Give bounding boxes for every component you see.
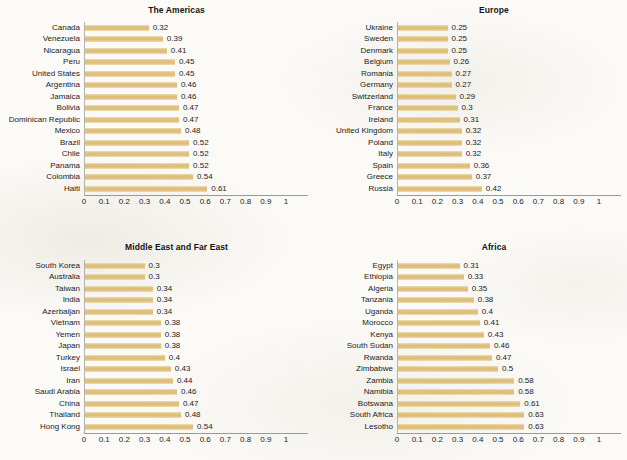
bar-track: 0.4: [84, 352, 313, 364]
bar: [397, 82, 452, 88]
x-tick-label: 0.9: [573, 198, 584, 206]
bar-row: Kenya0.43: [313, 329, 627, 341]
x-tick-label: 0.6: [513, 198, 524, 206]
bar-value-label: 0.32: [149, 24, 169, 32]
bar-row: South Africa0.63: [313, 410, 627, 422]
bar-row: China0.47: [0, 398, 313, 410]
y-axis-line: [397, 22, 398, 195]
bar-track: 0.41: [397, 318, 627, 330]
bar-track: 0.25: [397, 22, 627, 34]
bar: [397, 94, 456, 100]
bar-track: 0.38: [397, 295, 627, 307]
bar-row: Algeria0.35: [313, 283, 627, 295]
bar-row: Thailand0.48: [0, 410, 313, 422]
bar-value-label: 0.41: [167, 47, 187, 55]
bar-row: Zambia0.58: [313, 375, 627, 387]
bar-row: Chile0.52: [0, 149, 313, 161]
bar: [84, 366, 171, 372]
bar-value-label: 0.3: [458, 104, 473, 112]
bar-value-label: 0.25: [448, 24, 468, 32]
category-label: Nicaragua: [0, 47, 84, 55]
bar: [84, 297, 153, 303]
x-tick-label: 1: [284, 436, 288, 444]
bar-track: 0.32: [84, 22, 313, 34]
x-tick-label: 1: [597, 198, 601, 206]
bar-track: 0.52: [84, 160, 313, 172]
category-label: Algeria: [313, 285, 397, 293]
category-label: Chile: [0, 150, 84, 158]
bar: [397, 389, 514, 395]
bar-track: 0.61: [397, 398, 627, 410]
bar-value-label: 0.48: [181, 411, 201, 419]
bar-value-label: 0.36: [470, 162, 490, 170]
bar-row: Spain0.36: [313, 160, 627, 172]
category-label: South Korea: [0, 262, 84, 270]
x-tick-label: 0.1: [412, 436, 423, 444]
category-label: Australia: [0, 273, 84, 281]
bar-row: Belgium0.26: [313, 57, 627, 69]
category-label: Iran: [0, 377, 84, 385]
bar-value-label: 0.31: [460, 116, 480, 124]
category-label: Peru: [0, 58, 84, 66]
x-tick-label: 0: [395, 198, 399, 206]
bar-track: 0.35: [397, 283, 627, 295]
bar: [397, 263, 460, 269]
x-tick-label: 0.9: [260, 436, 271, 444]
bar-value-label: 0.38: [161, 331, 181, 339]
bar: [397, 71, 452, 77]
x-axis-ticks: 00.10.20.30.40.50.60.70.80.91: [397, 196, 599, 210]
category-label: France: [313, 104, 397, 112]
bar: [84, 117, 179, 123]
bar-row: Russia0.42: [313, 183, 627, 195]
bar: [397, 378, 514, 384]
category-label: Kenya: [313, 331, 397, 339]
bar: [84, 59, 175, 65]
bar: [84, 151, 189, 157]
bar-row: Brazil0.52: [0, 137, 313, 149]
category-label: Italy: [313, 150, 397, 158]
category-label: Turkey: [0, 354, 84, 362]
bar-row: Jamaica0.46: [0, 91, 313, 103]
bar-value-label: 0.27: [452, 81, 472, 89]
bar-value-label: 0.43: [484, 331, 504, 339]
bar-track: 0.31: [397, 114, 627, 126]
x-tick-label: 0.6: [513, 436, 524, 444]
plot-area-africa: Egypt0.31Ethiopia0.33Algeria0.35Tanzania…: [313, 260, 627, 433]
bar-row: Greece0.37: [313, 172, 627, 184]
bar-value-label: 0.46: [177, 81, 197, 89]
x-tick-label: 0.6: [200, 198, 211, 206]
bar: [84, 128, 181, 134]
bar-track: 0.43: [397, 329, 627, 341]
category-label: Ireland: [313, 116, 397, 124]
x-tick-label: 0.2: [119, 436, 130, 444]
category-label: Brazil: [0, 139, 84, 147]
bar-row: France0.3: [313, 103, 627, 115]
bar-value-label: 0.63: [524, 423, 544, 431]
category-label: Morocco: [313, 319, 397, 327]
bar-value-label: 0.34: [153, 296, 173, 304]
x-tick-label: 0.3: [452, 198, 463, 206]
bar: [84, 105, 179, 111]
bar-row: Germany0.27: [313, 80, 627, 92]
bar-row: United Kingdom0.32: [313, 126, 627, 138]
bar: [397, 48, 448, 54]
bar-value-label: 0.58: [514, 377, 534, 385]
panel-middle-east-and-far-east: Middle East and Far East South Korea0.3A…: [0, 230, 313, 460]
category-label: Lesotho: [313, 423, 397, 431]
category-label: Rwanda: [313, 354, 397, 362]
bar-track: 0.3: [84, 272, 313, 284]
bar: [397, 59, 450, 65]
bar-row: South Korea0.3: [0, 260, 313, 272]
bar-value-label: 0.47: [179, 400, 199, 408]
category-label: Ethiopia: [313, 273, 397, 281]
bar: [397, 105, 458, 111]
x-tick-label: 0.5: [179, 198, 190, 206]
category-label: United Kingdom: [313, 127, 397, 135]
bar: [397, 117, 460, 123]
bar-track: 0.45: [84, 57, 313, 69]
category-label: China: [0, 400, 84, 408]
bar: [397, 355, 492, 361]
bar-row: Ethiopia0.33: [313, 272, 627, 284]
bar-track: 0.58: [397, 387, 627, 399]
bar-value-label: 0.45: [175, 58, 195, 66]
